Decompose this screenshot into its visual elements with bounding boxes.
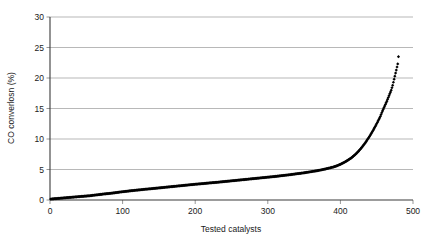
y-tick-label: 20 <box>35 73 45 83</box>
chart-background <box>0 0 428 243</box>
y-axis-label: CO converlosn (%) <box>6 72 16 144</box>
co-conversion-chart: 051015202530 0100200300400500 Tested cat… <box>0 0 428 243</box>
x-tick-label: 300 <box>261 206 275 216</box>
x-tick-label: 500 <box>406 206 420 216</box>
y-tick-label: 10 <box>35 134 45 144</box>
y-tick-label: 15 <box>35 104 45 114</box>
x-tick-label: 0 <box>48 206 53 216</box>
y-tick-label: 25 <box>35 43 45 53</box>
x-tick-label: 200 <box>188 206 202 216</box>
y-tick-label: 5 <box>39 165 44 175</box>
y-tick-label: 0 <box>39 195 44 205</box>
x-axis-label: Tested catalysts <box>201 224 261 234</box>
y-tick-label: 30 <box>35 12 45 22</box>
x-tick-label: 400 <box>333 206 347 216</box>
x-tick-label: 100 <box>116 206 130 216</box>
